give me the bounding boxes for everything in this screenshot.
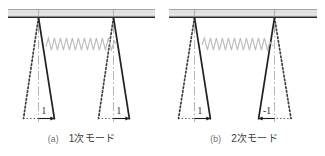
panel-b-diagram: 1 -1 [163, 0, 325, 130]
dash-dot-centerline-icon [39, 9, 114, 122]
right-leg-mirror-dotted [99, 18, 114, 119]
left-amplitude-arrow [39, 117, 55, 121]
hatched-beam-icon [169, 10, 317, 18]
left-amplitude-label: 1 [198, 106, 203, 116]
zigzag-spring-icon [46, 38, 117, 50]
panel-second-mode: 1 -1 (b) 2次モード [163, 0, 325, 156]
left-amplitude-label: 1 [42, 106, 47, 116]
left-leg [39, 18, 55, 120]
right-amplitude-arrow [258, 117, 274, 121]
panel-a-diagram: 1 1 [0, 0, 163, 130]
right-leg [114, 18, 130, 120]
panel-b-label: 2次モード [231, 133, 278, 144]
panel-a-tag: (a) [48, 134, 59, 144]
left-leg-mirror-dotted [24, 18, 39, 119]
panel-a-caption: (a) 1次モード [0, 130, 163, 145]
panel-a-label: 1次モード [69, 133, 116, 144]
panel-b-caption: (b) 2次モード [163, 130, 325, 145]
zigzag-spring-icon [202, 38, 273, 50]
hatched-beam-icon [8, 10, 155, 18]
right-amplitude-label: -1 [263, 106, 271, 116]
right-leg-mirror-dotted [275, 18, 292, 119]
left-amplitude-arrow [195, 117, 211, 121]
right-amplitude-arrow [114, 117, 130, 121]
left-leg-mirror-dotted [179, 18, 195, 119]
mode-shape-figure: 1 1 (a) 1次モード [0, 0, 325, 156]
right-leg [259, 18, 275, 120]
panel-first-mode: 1 1 (a) 1次モード [0, 0, 163, 156]
right-amplitude-label: 1 [117, 106, 122, 116]
panel-b-tag: (b) [210, 134, 221, 144]
left-leg [195, 18, 211, 120]
